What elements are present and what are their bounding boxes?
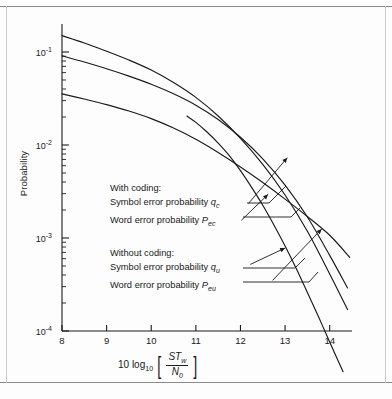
legend-without-coding: Without coding: Symbol error probability… <box>110 246 220 296</box>
x-tick-label: 11 <box>186 335 206 346</box>
x-tick-label: 8 <box>52 335 72 346</box>
legend-coded-heading: With coding: <box>110 181 219 195</box>
x-axis-title: 10 log10 [ STw N0 ] <box>118 352 199 380</box>
x-axis-title-fraction: STw N0 <box>166 352 188 380</box>
legend-uncoded-symbol: Symbol error probability qu <box>110 260 220 278</box>
x-tick-label: 14 <box>320 335 340 346</box>
y-tick-label: 10-4 <box>12 325 52 337</box>
y-tick-label: 10-2 <box>12 139 52 151</box>
curve-coded-symbol <box>62 94 350 257</box>
x-tick-label: 10 <box>141 335 161 346</box>
curve-coded-word <box>187 116 343 372</box>
legend-coded-symbol: Symbol error probability qc <box>110 195 219 213</box>
x-tick-label: 13 <box>275 335 295 346</box>
legend-uncoded-heading: Without coding: <box>110 246 220 260</box>
legend-coded-word: Word error probability Pec <box>110 213 219 231</box>
y-tick-label: 10-3 <box>12 232 52 244</box>
legend-with-coding: With coding: Symbol error probability qc… <box>110 181 219 231</box>
fraction-numerator: STw <box>166 352 188 364</box>
figure-container: Probability 10-110-210-310-4 89101112131… <box>0 0 392 399</box>
x-tick-label: 9 <box>97 335 117 346</box>
x-tick-marks <box>62 325 330 331</box>
x-axis-title-prefix: 10 log10 <box>118 359 153 372</box>
y-tick-label: 10-1 <box>12 46 52 58</box>
fraction-denominator: N0 <box>170 367 185 379</box>
bracket-left: [ <box>157 357 161 375</box>
bracket-right: ] <box>193 357 197 375</box>
leader-line <box>250 248 285 264</box>
legend-join-line <box>309 272 318 282</box>
legend-uncoded-word: Word error probability Peu <box>110 278 220 296</box>
x-tick-label: 12 <box>230 335 250 346</box>
legend-join-line <box>295 258 305 268</box>
